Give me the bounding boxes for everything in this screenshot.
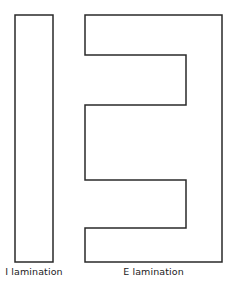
e-lamination-caption: E lamination: [85, 266, 222, 278]
i-lamination-caption: I lamination: [0, 266, 68, 278]
i-lamination-shape: [15, 15, 53, 262]
lamination-figure: I lamination E lamination: [0, 0, 245, 292]
e-lamination-shape: [85, 15, 222, 262]
lamination-diagram: [0, 0, 245, 292]
